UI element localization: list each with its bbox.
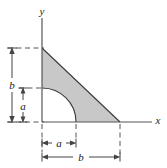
vertical-b-dimension-label: b [9, 80, 15, 91]
y-axis-label: y [40, 6, 45, 17]
vertical-a-dimension-label: a [20, 101, 26, 112]
x-axis-label: x [156, 115, 161, 126]
horizontal-b-dimension-label: b [78, 152, 84, 163]
geometry-figure: y x b a a b [0, 0, 167, 168]
figure-canvas [0, 0, 167, 168]
horizontal-a-dimension-label: a [56, 138, 62, 149]
